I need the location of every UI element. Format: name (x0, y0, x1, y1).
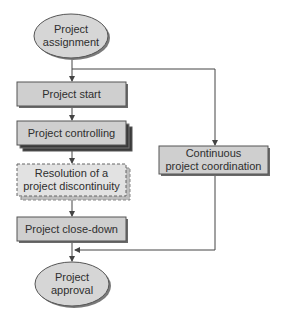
label-text: Project close-down (25, 223, 118, 236)
label-project-close-down: Project close-down (17, 217, 126, 241)
label-project-controlling: Project controlling (17, 121, 126, 145)
label-text: Project start (42, 88, 101, 101)
label-resolution: Resolution of a project discontinuity (17, 164, 126, 196)
label-line-2: approval (51, 284, 93, 297)
label-line-1: Resolution of a (35, 167, 108, 180)
label-line-1: Project (55, 271, 89, 284)
label-line-1: Project (54, 23, 88, 36)
label-project-approval: Project approval (35, 262, 109, 306)
label-line-2: project coordination (165, 160, 261, 173)
label-project-assignment: Project assignment (34, 14, 108, 58)
label-text: Project controlling (28, 127, 115, 140)
label-line-2: project discontinuity (23, 180, 120, 193)
label-line-1: Continuous (186, 147, 242, 160)
label-project-start: Project start (17, 82, 126, 106)
label-continuous-coordination: Continuous project coordination (159, 146, 268, 174)
label-line-2: assignment (43, 36, 99, 49)
